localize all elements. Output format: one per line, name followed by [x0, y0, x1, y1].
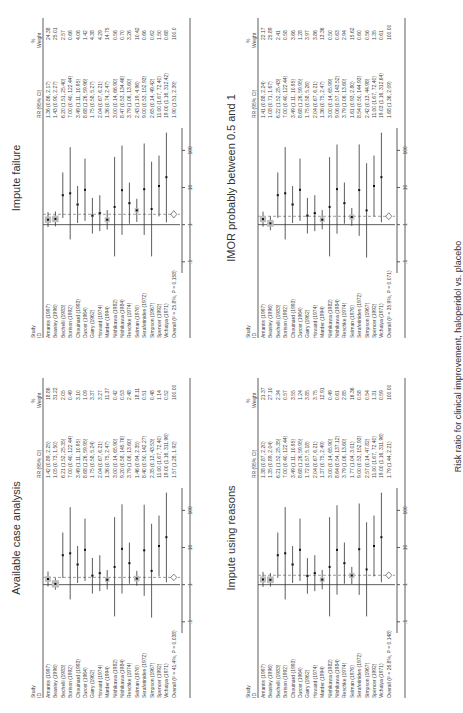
study-label: Garry (1962) [304, 670, 310, 698]
study-label: Garry (1962) [304, 310, 310, 338]
weight-value: 15.62 [349, 27, 355, 40]
rr-value: 11.00 (1.67, 72.40) [156, 76, 162, 118]
weight-value: 0.68 [163, 30, 169, 40]
study-label: Garry (1962) [89, 670, 95, 698]
svg-text:100: 100 [187, 146, 193, 155]
weight-value: 2.34 [275, 390, 281, 400]
rr-value: 9.00 (0.53, 152.93) [356, 436, 362, 478]
rr-value: 11.00 (1.67, 72.40) [371, 76, 377, 118]
svg-text:.1: .1 [187, 620, 193, 624]
weight-value: 0.54 [364, 390, 370, 400]
svg-text:10: 10 [187, 545, 193, 551]
weight-value: 0.63 [334, 30, 340, 40]
study-label: Simpson (1967) [149, 303, 155, 338]
study-label: Howard (1974) [97, 305, 103, 338]
weight-value: 3.75 [312, 390, 318, 400]
study-label: Bechelli (1983) [60, 305, 66, 338]
rr-value: 6.22 (1.52, 25.43) [275, 79, 281, 118]
study-label: Vichaiya (1971) [378, 663, 384, 698]
study-label: Serafetinides (1972) [141, 293, 147, 338]
header-weight: Weight [36, 393, 42, 408]
overall-rr: 1.90 (1.51, 2.39) [171, 81, 177, 118]
svg-text:10: 10 [187, 185, 193, 191]
weight-value: 1.24 [297, 390, 303, 400]
rr-value: 7.00 (0.40, 122.44) [67, 76, 73, 118]
svg-text:100: 100 [402, 146, 408, 155]
weight-value: 2.85 [341, 390, 347, 400]
panel-available-case: .1110100Available case analysisStudyIDRR… [10, 373, 200, 703]
study-label: Borison (1992) [282, 665, 288, 698]
study-label: Spencer (1992) [156, 304, 162, 338]
overall-weight: 100.0 [171, 27, 177, 40]
study-label: Borison (1992) [67, 305, 73, 338]
overall-label: Overall (I² = 26.8%, P = 0.148) [386, 630, 392, 698]
header-rr: RR (95% CI) [36, 90, 42, 118]
overall-label: Overall (I² = 25.8%, P = 0.158) [171, 270, 177, 338]
study-label: Beasley (1996) [52, 664, 58, 698]
weight-value: 2.05 [60, 390, 66, 400]
study-label: Selman (1976) [134, 305, 140, 338]
rr-value: 1.77 (1.04, 3.01) [349, 441, 355, 478]
weight-value: 12.91 [319, 387, 325, 400]
weight-value: 3.66 [290, 30, 296, 40]
study-label: Selman (1976) [134, 665, 140, 698]
weight-value: 2.48 [126, 390, 132, 400]
study-label: Nishikawa (1984) [119, 299, 125, 338]
weight-value: 0.56 [364, 30, 370, 40]
study-label: Marder (1994) [319, 666, 325, 698]
study-label: Spencer (1992) [371, 304, 377, 338]
study-label: Reschke (1974) [341, 663, 347, 698]
panel-impute-failure: .1110100Impute failureStudyIDRR (95% CI)… [10, 13, 200, 343]
header-id: ID [36, 333, 42, 338]
rr-value: 8.64 (0.54, 137.12) [334, 436, 340, 478]
study-label: Nishikawa (1984) [334, 659, 340, 698]
header-weight: Weight [251, 393, 257, 408]
study-label: Bechelli (1983) [60, 665, 66, 698]
rr-value: 1.72 (0.57, 5.18) [304, 441, 310, 478]
weight-value: 3.97 [304, 30, 310, 40]
svg-text:10: 10 [402, 545, 408, 551]
weight-value: 31.22 [52, 387, 58, 400]
weight-value: 1.50 [156, 30, 162, 40]
weight-value: 10.42 [134, 27, 140, 40]
rr-value: 1.35 (0.89, 2.04) [267, 441, 273, 478]
study-label: Simpson (1967) [364, 303, 370, 338]
study-label: Howard (1974) [97, 665, 103, 698]
weight-value: 0.56 [112, 30, 118, 40]
rr-value: 2.04 (0.67, 6.21) [97, 81, 103, 118]
rr-value: 19.00 (1.16, 312.42) [163, 73, 169, 118]
study-label: Nishikawa (1982) [112, 299, 118, 338]
study-label: Borison (1992) [67, 665, 73, 698]
study-label: Chouinard (1993) [75, 659, 81, 698]
weight-value: 3.27 [97, 390, 103, 400]
rr-value: 1.36 (0.75, 2.47) [319, 81, 325, 118]
rr-value: 11.00 (1.67, 72.40) [156, 436, 162, 478]
study-label: Simpson (1967) [149, 663, 155, 698]
weight-value: 18.11 [134, 388, 140, 400]
weight-value: 1.35 [371, 30, 377, 40]
rr-value: 2.57 (0.14, 47.82) [364, 439, 370, 478]
rr-value: 19.00 (1.16, 311.96) [378, 433, 384, 478]
rr-value: 2.42 (0.13, 44.98) [364, 79, 370, 118]
study-label: Vichaiya (1971) [163, 663, 169, 698]
study-label: Amantis (1997) [260, 664, 266, 698]
svg-text:10: 10 [402, 185, 408, 191]
rr-value: 1.36 (0.75, 2.47) [104, 441, 110, 478]
study-label: Reschke (1974) [126, 303, 132, 338]
study-label: Howard (1974) [312, 665, 318, 698]
weight-value: 27.10 [267, 387, 273, 400]
rr-value: 1.05 (0.73, 1.50) [52, 441, 58, 478]
rr-value: 1.61 (0.93, 2.80) [349, 81, 355, 118]
rr-value: 19.00 (1.16, 311.96) [163, 433, 169, 478]
panel-title: Impute failure [10, 13, 22, 343]
panel-impute-reasons: .1110100Impute using reasonsStudyIDRR (9… [225, 373, 415, 703]
rr-value: 3.49 (1.11, 10.95) [75, 439, 81, 478]
rr-value: 8.68 (1.26, 59.95) [297, 79, 303, 118]
study-label: Marder (1994) [104, 666, 110, 698]
study-label: Vichaiya (1971) [378, 303, 384, 338]
study-label: Selman (1976) [349, 305, 355, 338]
study-label: Nishikawa (1982) [327, 299, 333, 338]
overall-rr: 1.79 (1.44, 2.21) [386, 441, 392, 478]
study-label: Amantis (1997) [260, 304, 266, 338]
header-weight: Weight [251, 33, 257, 48]
